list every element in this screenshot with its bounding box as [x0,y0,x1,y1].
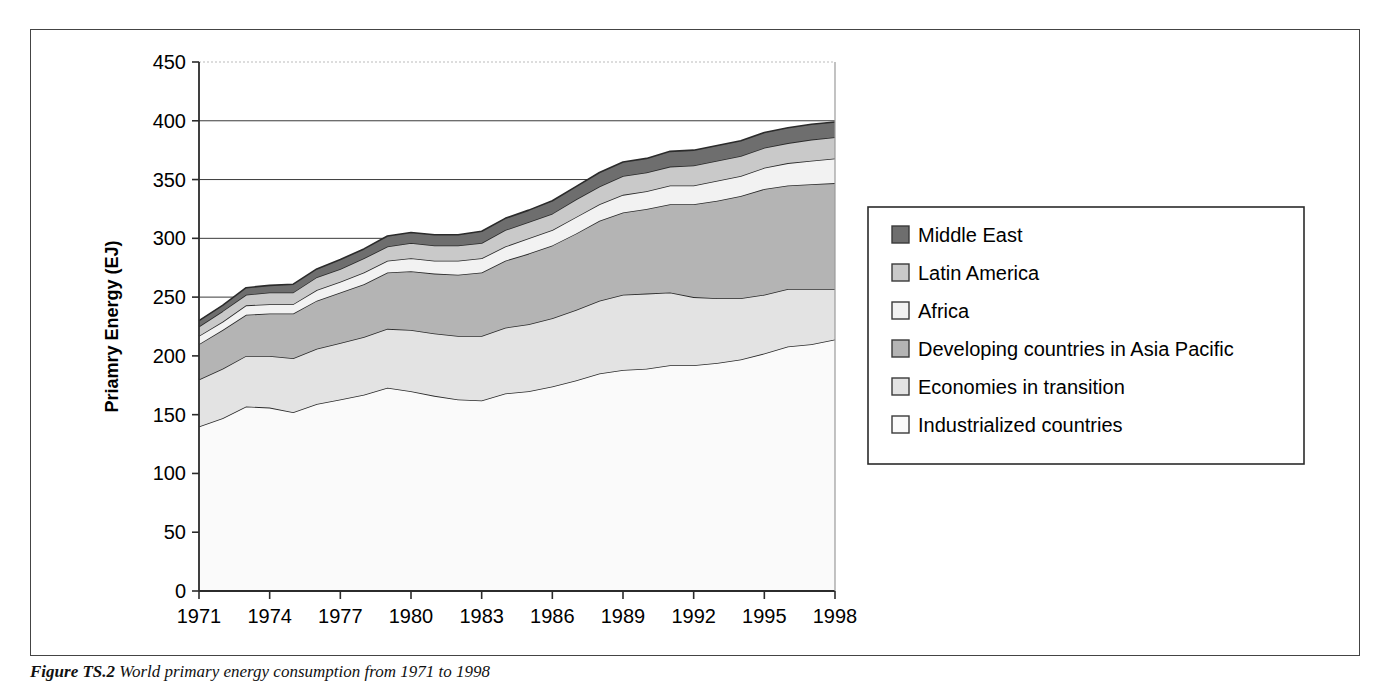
y-tick-label-250: 250 [153,286,186,308]
legend-swatch-icon [892,226,909,243]
legend-item-label: Middle East [918,224,1023,246]
legend-item-label: Africa [918,300,970,322]
legend-swatch-icon [892,340,909,357]
x-tick-label-1971: 1971 [177,605,222,627]
figure-caption: Figure TS.2 World primary energy consump… [30,662,1360,682]
legend-item-3[interactable]: Developing countries in Asia Pacific [892,338,1234,360]
x-tick-label-1992: 1992 [671,605,716,627]
legend-swatch-icon [892,416,909,433]
legend-swatch-icon [892,264,909,281]
x-tick-label-1986: 1986 [530,605,575,627]
x-tick-label-1977: 1977 [318,605,363,627]
x-tick-label-1983: 1983 [459,605,504,627]
y-tick-label-200: 200 [153,345,186,367]
legend-item-label: Economies in transition [918,376,1125,398]
figure-root: 0501001502002503003504004501971197419771… [0,0,1385,682]
stacked-area-chart: 0501001502002503003504004501971197419771… [0,0,1385,682]
legend-item-5[interactable]: Industrialized countries [892,414,1123,436]
y-axis-title: Priamry Energy (EJ) [102,240,122,412]
legend-swatch-icon [892,302,909,319]
legend-swatch-icon [892,378,909,395]
x-tick-label-1995: 1995 [742,605,787,627]
legend-item-4[interactable]: Economies in transition [892,376,1125,398]
legend-item-label: Industrialized countries [918,414,1123,436]
y-tick-label-50: 50 [164,521,186,543]
y-tick-label-400: 400 [153,110,186,132]
caption-label: Figure TS.2 [30,662,115,681]
y-tick-label-300: 300 [153,227,186,249]
y-tick-label-150: 150 [153,404,186,426]
legend-item-label: Latin America [918,262,1040,284]
y-tick-label-350: 350 [153,169,186,191]
x-tick-label-1989: 1989 [601,605,646,627]
y-tick-label-450: 450 [153,51,186,73]
caption-text: World primary energy consumption from 19… [119,662,490,681]
legend-item-label: Developing countries in Asia Pacific [918,338,1234,360]
y-tick-label-0: 0 [175,580,186,602]
x-tick-label-1998: 1998 [813,605,858,627]
y-tick-label-100: 100 [153,462,186,484]
x-tick-label-1980: 1980 [389,605,434,627]
x-tick-label-1974: 1974 [247,605,292,627]
legend-item-2[interactable]: Africa [892,300,970,322]
